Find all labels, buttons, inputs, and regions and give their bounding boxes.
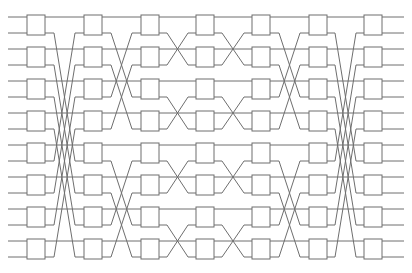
switch-box — [84, 207, 102, 227]
switch-box — [141, 15, 159, 35]
switch-box — [141, 79, 159, 99]
switch-box — [27, 79, 45, 99]
switch-box — [27, 239, 45, 259]
switch-box — [141, 207, 159, 227]
switch-box — [252, 111, 270, 131]
switch-box — [252, 143, 270, 163]
switch-box — [196, 15, 214, 35]
switch-box — [196, 207, 214, 227]
switch-boxes-layer — [27, 15, 382, 259]
switch-box — [252, 207, 270, 227]
switch-box — [309, 15, 327, 35]
switch-box — [27, 111, 45, 131]
switch-box — [309, 207, 327, 227]
switch-box — [84, 15, 102, 35]
switch-box — [84, 239, 102, 259]
switch-box — [252, 175, 270, 195]
switch-box — [84, 79, 102, 99]
switch-box — [309, 111, 327, 131]
switch-box — [196, 239, 214, 259]
switch-box — [364, 207, 382, 227]
switch-box — [196, 111, 214, 131]
switch-box — [364, 143, 382, 163]
switch-box — [364, 47, 382, 67]
switching-network-diagram — [0, 0, 412, 273]
switch-box — [141, 239, 159, 259]
diagram-canvas — [0, 0, 412, 273]
switch-box — [84, 143, 102, 163]
switch-box — [252, 239, 270, 259]
switch-box — [141, 143, 159, 163]
switch-box — [27, 175, 45, 195]
switch-box — [309, 175, 327, 195]
switch-box — [27, 15, 45, 35]
switch-box — [364, 175, 382, 195]
switch-box — [309, 47, 327, 67]
switch-box — [364, 239, 382, 259]
switch-box — [27, 47, 45, 67]
switch-box — [84, 175, 102, 195]
switch-box — [364, 15, 382, 35]
switch-box — [364, 111, 382, 131]
switch-box — [364, 79, 382, 99]
switch-box — [141, 47, 159, 67]
switch-box — [309, 143, 327, 163]
switch-box — [141, 111, 159, 131]
switch-box — [309, 239, 327, 259]
switch-box — [252, 79, 270, 99]
switch-box — [252, 47, 270, 67]
switch-box — [196, 47, 214, 67]
switch-box — [84, 47, 102, 67]
switch-box — [309, 79, 327, 99]
switch-box — [196, 79, 214, 99]
switch-box — [27, 143, 45, 163]
switch-box — [196, 175, 214, 195]
switch-box — [141, 175, 159, 195]
switch-box — [196, 143, 214, 163]
switch-box — [252, 15, 270, 35]
switch-box — [27, 207, 45, 227]
switch-box — [84, 111, 102, 131]
